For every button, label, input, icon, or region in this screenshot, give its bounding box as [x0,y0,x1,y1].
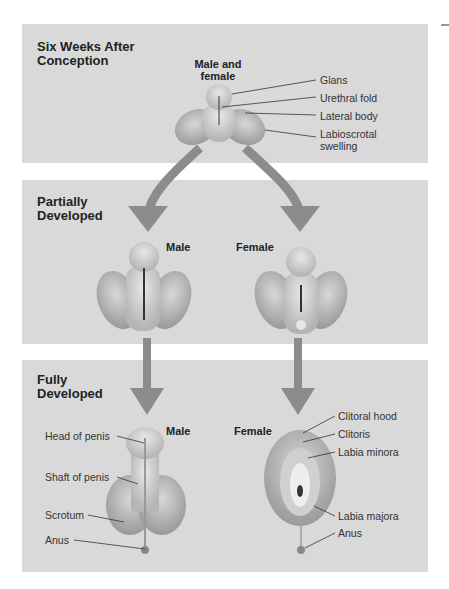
stage3-female-label: Female [234,425,272,437]
stage2-male-label: Male [166,241,190,253]
stage1-title: Six Weeks After Conception [37,40,135,68]
label-swelling: swelling [320,140,357,152]
label-clitoris: Clitoris [338,428,370,440]
stage2-female-label: Female [236,241,274,253]
label-clitoral-hood: Clitoral hood [338,410,397,422]
diagram-graphics [0,0,449,589]
label-labioscrotal: Labioscrotal [320,128,377,140]
label-anus-female: Anus [338,527,362,539]
label-head-of-penis: Head of penis [45,430,110,442]
label-urethral-fold: Urethral fold [320,92,377,104]
stage3-male-label: Male [166,425,190,437]
label-glans: Glans [320,74,347,86]
label-labia-majora: Labia majora [338,510,399,522]
stage2-title: Partially Developed [37,195,103,223]
stage1-subject: Male and female [186,58,250,82]
label-scrotum: Scrotum [45,509,84,521]
label-anus-male: Anus [45,534,69,546]
stage3-title: Fully Developed [37,373,103,401]
label-lateral-body: Lateral body [320,110,378,122]
label-shaft-of-penis: Shaft of penis [45,471,109,483]
label-labia-minora: Labia minora [338,446,399,458]
